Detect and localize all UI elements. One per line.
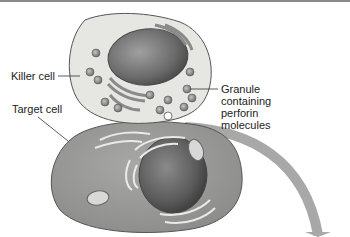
target-cell-leader: [38, 117, 68, 141]
killer-cell-label: Killer cell: [11, 70, 55, 82]
killer-cell: [69, 13, 211, 123]
granule-label-2: containing: [221, 95, 271, 107]
target-cell: [51, 121, 242, 232]
perforin-release: [164, 112, 172, 120]
target-cell-label: Target cell: [12, 103, 62, 115]
granule-label-1: Granule: [221, 83, 260, 95]
granule-label-3: perforin: [221, 107, 258, 119]
cell-diagram: [0, 0, 350, 237]
granule-label-4: molecules: [221, 119, 271, 131]
